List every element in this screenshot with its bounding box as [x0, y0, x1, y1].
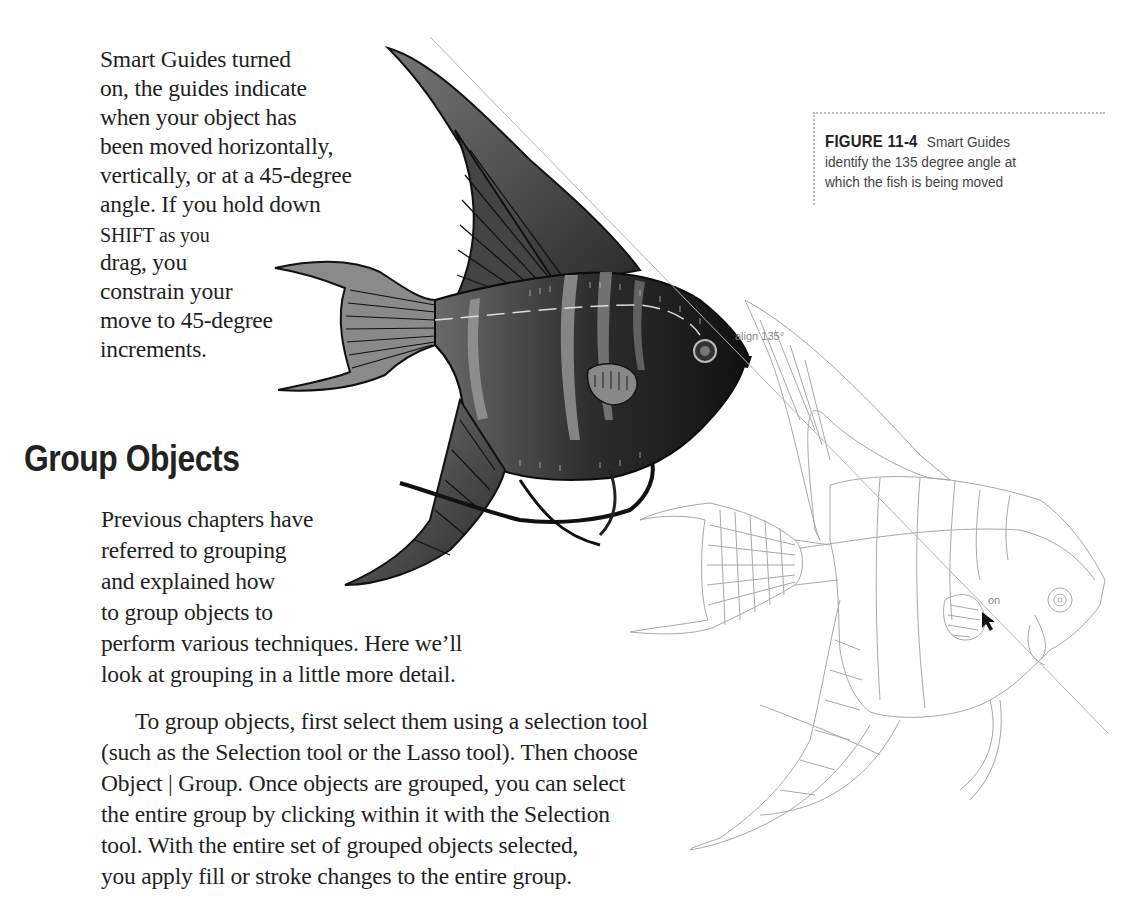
text-line: drag, you	[100, 247, 187, 277]
text-line: and explained how	[101, 566, 275, 596]
figure-label-word: Figure	[825, 132, 883, 151]
text-line: been moved horizontally,	[100, 131, 333, 161]
text-line: on, the guides indicate	[100, 73, 307, 103]
figure-caption: Figure 11-4 Smart Guides identify the 13…	[825, 132, 1016, 192]
text-line: vertically, or at a 45-degree	[100, 160, 352, 190]
text-line: move to 45-degree	[100, 305, 273, 335]
section-heading: Group Objects	[24, 438, 239, 480]
smart-guide-label: align 135°	[735, 330, 784, 342]
text-line: increments.	[100, 334, 207, 364]
text-line: to group objects to	[101, 597, 273, 627]
text-line: To group objects, first select them usin…	[135, 706, 648, 736]
figure-caption-box: Figure 11-4 Smart Guides identify the 13…	[813, 112, 1105, 205]
text-line: Object | Group. Once objects are grouped…	[101, 768, 625, 798]
caption-line: identify the 135 degree angle at	[825, 152, 1016, 172]
cursor-hint-label: on	[988, 594, 1000, 606]
text-line: angle. If you hold down	[100, 189, 321, 219]
solid-fish	[275, 48, 752, 585]
caption-text-start: Smart Guides	[927, 133, 1010, 150]
text-line: tool. With the entire set of grouped obj…	[101, 830, 578, 860]
text-line: the entire group by clicking within it w…	[101, 799, 610, 829]
text-line: referred to grouping	[101, 535, 286, 565]
text-line: SHIFT as you	[100, 220, 209, 250]
figure-label-number: 11-4	[888, 132, 918, 151]
text-line: (such as the Selection tool or the Lasso…	[101, 737, 638, 767]
caption-line: Figure 11-4 Smart Guides	[825, 132, 1016, 152]
text-line: you apply fill or stroke changes to the …	[101, 861, 572, 891]
text-line: look at grouping in a little more detail…	[101, 659, 456, 689]
text-line: when your object has	[100, 102, 296, 132]
text-line: constrain your	[100, 276, 232, 306]
caption-line: which the fish is being moved	[825, 172, 1016, 192]
text-line: Previous chapters have	[101, 504, 313, 534]
text-line: perform various techniques. Here we’ll	[101, 628, 462, 658]
text-line: Smart Guides turned	[100, 44, 291, 74]
figure-label: Figure 11-4	[825, 132, 918, 151]
